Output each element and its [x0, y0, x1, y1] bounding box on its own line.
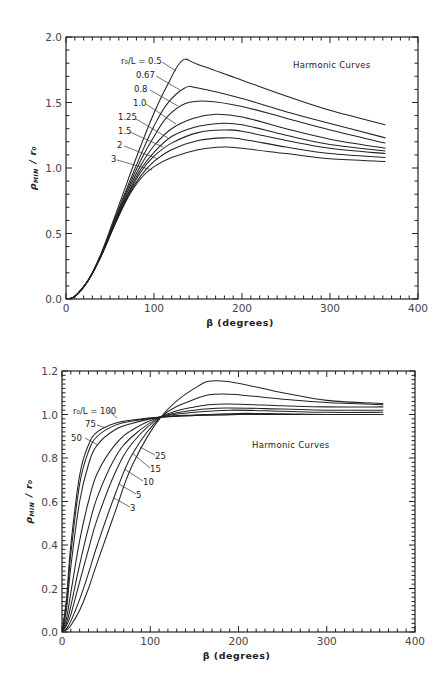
y-tick-label: 1.0 [41, 409, 58, 421]
y-tick-label: 0.4 [41, 539, 58, 551]
svg-text:ρMIN / r₀: ρMIN / r₀ [23, 479, 35, 523]
x-tick-label: 300 [317, 635, 337, 647]
x-axis-label: β (degrees) [206, 317, 274, 328]
chart-top: 01002003004000.00.51.01.52.0β (degrees)ρ… [27, 31, 428, 328]
curve-label: 75 [85, 419, 96, 429]
series-curve [62, 414, 383, 632]
x-tick-label: 100 [140, 635, 160, 647]
y-tick-label: 0.8 [41, 452, 58, 464]
series-curve [62, 394, 383, 632]
x-tick-label: 400 [405, 635, 425, 647]
curve-label: 3 [130, 503, 135, 513]
y-tick-label: 0.6 [41, 496, 58, 508]
x-tick-label: 200 [232, 302, 252, 314]
x-tick-label: 200 [228, 635, 248, 647]
curve-label: r₀/L = 100 [73, 406, 116, 416]
curve-label: 5 [136, 490, 141, 500]
curves [66, 59, 385, 299]
curve-labels: r₀/L = 0.50.670.81.01.251.523 [111, 56, 180, 170]
series-curve [62, 408, 383, 632]
x-tick-label: 0 [63, 302, 70, 314]
curve-label: r₀/L = 0.5 [121, 56, 162, 66]
series-curve [62, 413, 383, 632]
curve-label: 0.67 [136, 70, 155, 80]
x-tick-label: 100 [144, 302, 164, 314]
curve-label: 2 [117, 140, 122, 150]
curves [62, 381, 383, 632]
curve-label: 15 [150, 464, 161, 474]
axis-ticks [66, 37, 418, 299]
series-curve [66, 86, 385, 299]
plot-frame [66, 37, 418, 299]
x-tick-label: 0 [59, 635, 66, 647]
y-axis-label: ρMIN / r₀ [23, 479, 35, 523]
y-tick-label: 0.0 [45, 293, 62, 305]
series-curve [62, 414, 383, 632]
y-tick-label: 0.2 [41, 583, 58, 595]
curve-label: 25 [155, 451, 166, 461]
y-axis-label: ρMIN / r₀ [27, 146, 39, 190]
series-curve [62, 404, 383, 632]
curve-label: 0.8 [134, 84, 148, 94]
x-tick-label: 400 [408, 302, 428, 314]
curve-label: 1.25 [118, 112, 137, 122]
chart-bottom: 01002003004000.00.20.40.60.81.01.2β (deg… [23, 365, 425, 661]
curve-label: 1.5 [118, 126, 132, 136]
curve-label: 3 [111, 154, 116, 164]
series-curve [66, 59, 385, 299]
y-tick-label: 2.0 [45, 31, 62, 43]
annotation-harmonic-curves: Harmonic Curves [293, 60, 371, 70]
y-tick-label: 1.5 [45, 97, 62, 109]
x-tick-label: 300 [320, 302, 340, 314]
curve-label: 1.0 [133, 98, 147, 108]
figure: 01002003004000.00.51.01.52.0β (degrees)ρ… [0, 0, 442, 679]
curve-label: 10 [143, 477, 154, 487]
y-tick-label: 0.5 [45, 228, 62, 240]
y-tick-label: 1.0 [45, 162, 62, 174]
y-tick-label: 1.2 [41, 365, 58, 377]
series-curve [66, 114, 385, 299]
y-tick-label: 0.0 [41, 626, 58, 638]
x-axis-label: β (degrees) [203, 650, 271, 661]
series-curve [66, 101, 385, 299]
series-curve [62, 410, 383, 632]
curve-label: 50 [71, 433, 82, 443]
annotation-harmonic-curves: Harmonic Curves [252, 440, 330, 450]
svg-text:ρMIN / r₀: ρMIN / r₀ [27, 146, 39, 190]
